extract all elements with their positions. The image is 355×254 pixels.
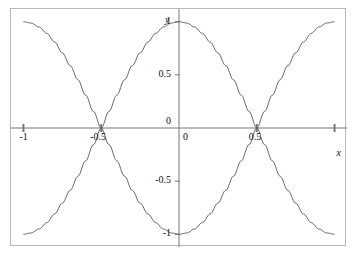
- y-tick-label-0point5: 0.5: [159, 69, 172, 79]
- chart-screenshot: 1 0.5 0 -0.5 -1 -1 -0.5 0 0.5 y x: [0, 0, 355, 254]
- x-tick-label-0: 0: [183, 132, 188, 142]
- plot-frame: 1 0.5 0 -0.5 -1 -1 -0.5 0 0.5 y x: [10, 8, 346, 246]
- y-axis-name-label: y: [165, 15, 169, 25]
- x-tick-label-0point5: 0.5: [249, 132, 262, 142]
- plot-canvas: [11, 9, 347, 247]
- y-tick-label-minus1: -1: [163, 228, 171, 238]
- y-tick-label-minus0point5: -0.5: [155, 175, 171, 185]
- x-axis-name-label: x: [337, 148, 341, 158]
- axes-group: [11, 9, 347, 247]
- x-tick-label-minus1: -1: [19, 132, 27, 142]
- y-tick-label-0: 0: [166, 116, 171, 126]
- x-tick-label-minus0point5: -0.5: [90, 132, 106, 142]
